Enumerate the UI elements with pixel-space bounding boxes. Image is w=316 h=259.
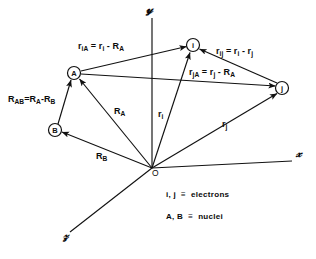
svg-text:j: j — [280, 84, 283, 93]
legend-nuclei-symbols: A, B — [166, 212, 183, 221]
svg-text:B: B — [52, 126, 58, 135]
vector-label-r-jA: rjA = rj - RA — [189, 68, 235, 77]
vector-label-r-i: ri — [158, 110, 163, 119]
vector-label-R-B: RB — [96, 152, 107, 161]
vector-r-jA — [81, 74, 276, 86]
legend-nuclei-relation: ≡ — [183, 212, 198, 221]
vector-label-r-ij: rij = ri - rj — [216, 47, 253, 56]
vector-label-R-AB: RAB=RA-RB — [8, 95, 55, 104]
origin-label: O — [152, 168, 159, 178]
z-axis-label: 𝓏 — [63, 228, 69, 243]
svg-text:A: A — [71, 69, 77, 78]
legend-electrons-relation: ≡ — [176, 190, 191, 199]
x-axis-label: 𝓍 — [296, 146, 302, 161]
node-B: B — [49, 124, 62, 137]
legend-electrons: i, j≡electrons — [166, 190, 229, 199]
z-axis-line — [70, 168, 152, 232]
vector-label-r-iA: riA = ri - RA — [78, 42, 124, 51]
y-axis-label: 𝓎 — [146, 2, 153, 17]
legend-electrons-meaning: electrons — [191, 190, 229, 199]
vector-diagram-figure: A B i j 𝓎 𝓍 𝓏 O riA = ri - RA rij = ri -… — [0, 0, 316, 259]
vector-R-A — [80, 79, 153, 168]
diagram-canvas: A B i j — [0, 0, 316, 259]
vector-r-j — [152, 94, 277, 169]
node-A: A — [68, 67, 81, 80]
node-j: j — [276, 82, 289, 95]
vector-label-R-A: RA — [114, 107, 125, 116]
node-i: i — [187, 39, 200, 52]
legend-nuclei: A, B≡nuclei — [166, 212, 223, 221]
vector-R-AB — [58, 80, 71, 124]
legend-nuclei-meaning: nuclei — [198, 212, 223, 221]
vector-label-r-j: rj — [222, 120, 227, 129]
svg-text:i: i — [192, 41, 194, 50]
x-axis-line — [152, 161, 292, 168]
vector-R-B — [62, 132, 152, 168]
legend-electrons-symbols: i, j — [166, 190, 176, 199]
